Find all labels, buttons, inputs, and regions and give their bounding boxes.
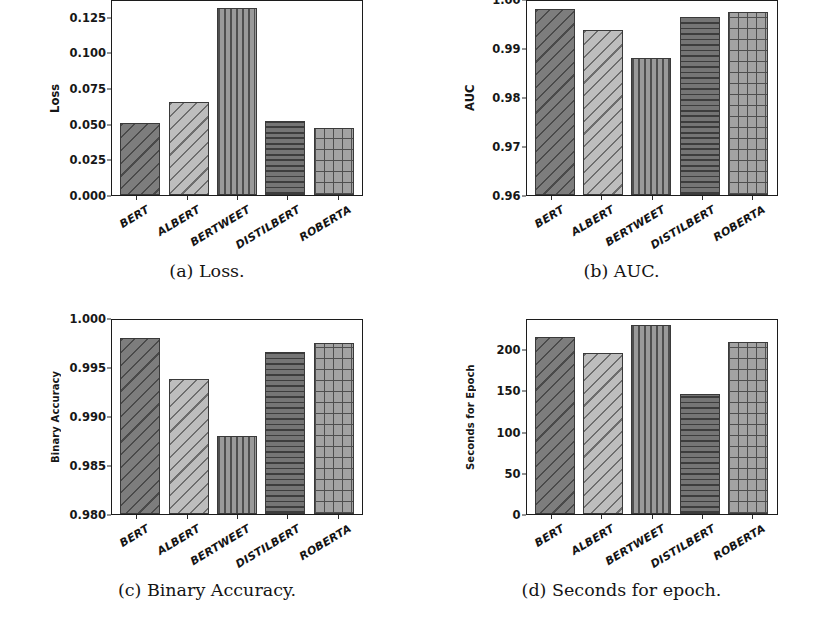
- y-tick-label: 50: [504, 467, 520, 481]
- bar-auc-roberta: [728, 12, 768, 195]
- x-tick-row-binary-accuracy: BERTALBERTBERTWEETDISTILBERTROBERTA: [111, 515, 363, 571]
- bars-layer: [527, 320, 777, 514]
- bar-loss-distilbert: [265, 121, 305, 195]
- y-tick-label: 0.050: [70, 118, 106, 132]
- bar-auc-bert: [535, 9, 575, 195]
- x-tick-label-roberta: ROBERTA: [711, 203, 768, 244]
- y-tick-column-binary-accuracy: 0.9800.9850.9900.9951.000: [63, 319, 111, 515]
- y-tick-label: 0.990: [70, 410, 106, 424]
- x-tick-mark: [237, 196, 238, 200]
- x-tick-mark: [136, 196, 137, 200]
- subfigure-binary-accuracy: Binary Accuracy0.9800.9850.9900.9951.000…: [0, 319, 414, 638]
- x-tick-mark: [551, 196, 552, 200]
- y-axis-label-binary-accuracy: Binary Accuracy: [47, 319, 63, 515]
- y-tick-label: 1.000: [70, 312, 106, 326]
- x-tick-mark: [338, 196, 339, 200]
- x-tick-mark: [187, 515, 188, 519]
- bar-seconds-for-epoch-roberta: [728, 342, 768, 514]
- subfigure-caption-binary-accuracy: (c) Binary Accuracy.: [118, 580, 296, 600]
- bars-layer: [112, 320, 362, 514]
- x-tick-label-bert: BERT: [118, 203, 152, 231]
- bar-loss-bert: [120, 123, 160, 195]
- y-tick-label: 0.995: [70, 361, 106, 375]
- x-tick-mark: [752, 196, 753, 200]
- x-tick-mark: [752, 515, 753, 519]
- y-tick-column-auc: 0.960.970.980.991.00: [478, 0, 526, 196]
- x-tick-mark: [702, 515, 703, 519]
- subfigure-loss: Loss0.0000.0250.0500.0750.1000.125BERTAL…: [0, 0, 414, 319]
- y-tick-label: 0.97: [492, 140, 520, 154]
- y-tick-label: 0.98: [492, 91, 520, 105]
- y-tick-column-seconds-for-epoch: 050100150200: [478, 319, 526, 515]
- bar-auc-distilbert: [680, 17, 720, 195]
- axes-frame-binary-accuracy: [111, 319, 363, 515]
- x-tick-mark: [652, 515, 653, 519]
- y-tick-column-loss: 0.0000.0250.0500.0750.1000.125: [63, 0, 111, 196]
- bar-loss-bertweet: [217, 8, 257, 195]
- bar-binary-accuracy-albert: [169, 379, 209, 514]
- x-tick-mark: [601, 196, 602, 200]
- bar-seconds-for-epoch-bertweet: [631, 325, 671, 514]
- bar-loss-albert: [169, 102, 209, 195]
- y-tick-label: 200: [496, 343, 520, 357]
- plot-panel-auc: AUC0.960.970.980.991.00BERTALBERTBERTWEE…: [462, 0, 782, 253]
- x-tick-mark: [702, 196, 703, 200]
- x-tick-label-bert: BERT: [532, 522, 566, 550]
- x-tick-row-seconds-for-epoch: BERTALBERTBERTWEETDISTILBERTROBERTA: [526, 515, 778, 571]
- y-tick-label: 0: [512, 508, 520, 522]
- plot-panel-loss: Loss0.0000.0250.0500.0750.1000.125BERTAL…: [47, 0, 367, 253]
- x-tick-row-loss: BERTALBERTBERTWEETDISTILBERTROBERTA: [111, 196, 363, 252]
- plot-panel-seconds-for-epoch: Seconds for Epoch050100150200BERTALBERTB…: [462, 319, 782, 572]
- plot-panel-binary-accuracy: Binary Accuracy0.9800.9850.9900.9951.000…: [47, 319, 367, 572]
- bar-binary-accuracy-roberta: [314, 343, 354, 514]
- x-tick-row-auc: BERTALBERTBERTWEETDISTILBERTROBERTA: [526, 196, 778, 252]
- y-tick-label: 150: [496, 384, 520, 398]
- bar-binary-accuracy-bertweet: [217, 436, 257, 514]
- y-tick-label: 0.985: [70, 459, 106, 473]
- subfigure-caption-loss: (a) Loss.: [169, 261, 244, 281]
- subfigure-auc: AUC0.960.970.980.991.00BERTALBERTBERTWEE…: [414, 0, 829, 319]
- x-tick-mark: [287, 515, 288, 519]
- x-tick-mark: [601, 515, 602, 519]
- y-axis-label-loss: Loss: [47, 0, 63, 196]
- y-tick-label: 1.00: [492, 0, 520, 7]
- x-tick-mark: [652, 196, 653, 200]
- x-tick-label-bert: BERT: [118, 522, 152, 550]
- bar-loss-roberta: [314, 128, 354, 195]
- bar-seconds-for-epoch-distilbert: [680, 394, 720, 514]
- x-tick-mark: [136, 515, 137, 519]
- x-tick-mark: [187, 196, 188, 200]
- axes-frame-auc: [526, 0, 778, 196]
- bar-seconds-for-epoch-albert: [583, 353, 623, 514]
- x-tick-mark: [287, 196, 288, 200]
- bar-binary-accuracy-distilbert: [265, 352, 305, 514]
- bar-auc-bertweet: [631, 58, 671, 195]
- x-tick-label-bert: BERT: [532, 203, 566, 231]
- y-tick-label: 0.96: [492, 189, 520, 203]
- x-tick-label-roberta: ROBERTA: [297, 522, 354, 563]
- y-tick-label: 0.980: [70, 508, 106, 522]
- y-tick-label: 0.125: [70, 11, 106, 25]
- x-tick-mark: [551, 515, 552, 519]
- bar-auc-albert: [583, 30, 623, 195]
- bars-layer: [527, 1, 777, 195]
- y-tick-label: 0.025: [70, 153, 106, 167]
- x-tick-mark: [237, 515, 238, 519]
- x-tick-mark: [338, 515, 339, 519]
- y-axis-label-seconds-for-epoch: Seconds for Epoch: [462, 319, 478, 515]
- subfigure-caption-seconds-for-epoch: (d) Seconds for epoch.: [522, 580, 722, 600]
- subfigure-caption-auc: (b) AUC.: [583, 261, 659, 281]
- x-tick-label-roberta: ROBERTA: [297, 203, 354, 244]
- x-tick-label-roberta: ROBERTA: [711, 522, 768, 563]
- y-tick-label: 100: [496, 426, 520, 440]
- y-tick-label: 0.99: [492, 42, 520, 56]
- y-tick-label: 0.100: [70, 46, 106, 60]
- subfigure-seconds-for-epoch: Seconds for Epoch050100150200BERTALBERTB…: [414, 319, 829, 638]
- bar-seconds-for-epoch-bert: [535, 337, 575, 514]
- axes-frame-seconds-for-epoch: [526, 319, 778, 515]
- axes-frame-loss: [111, 0, 363, 196]
- bars-layer: [112, 1, 362, 195]
- y-tick-label: 0.075: [70, 82, 106, 96]
- y-tick-label: 0.000: [70, 189, 106, 203]
- y-axis-label-auc: AUC: [462, 0, 478, 196]
